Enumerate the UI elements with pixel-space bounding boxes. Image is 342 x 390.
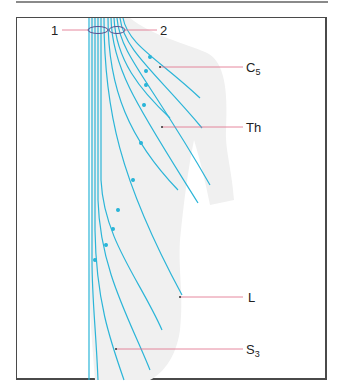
dermatome-diagram xyxy=(0,0,342,390)
body-silhouette xyxy=(89,18,234,380)
label-c5: C5 xyxy=(246,61,260,77)
label-marker-2: 2 xyxy=(160,24,167,37)
label-s3-subscript: 3 xyxy=(255,349,260,359)
label-s3: S3 xyxy=(246,343,260,359)
label-c5-subscript: 5 xyxy=(255,67,260,77)
label-marker-1: 1 xyxy=(51,24,58,37)
label-s3-letter: S xyxy=(246,342,255,357)
label-th: Th xyxy=(246,121,261,134)
label-c5-letter: C xyxy=(246,60,255,75)
label-l: L xyxy=(248,291,255,304)
